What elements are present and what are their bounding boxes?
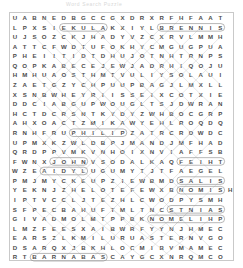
grid-cell[interactable]: Y — [137, 23, 147, 33]
grid-cell[interactable]: J — [78, 32, 88, 42]
grid-cell[interactable]: L — [78, 166, 88, 176]
grid-cell[interactable]: A — [10, 42, 20, 52]
grid-cell[interactable]: D — [108, 32, 118, 42]
grid-cell[interactable]: V — [196, 233, 206, 243]
grid-cell[interactable]: R — [157, 61, 167, 71]
grid-cell[interactable]: P — [215, 214, 225, 224]
grid-cell[interactable]: V — [39, 195, 49, 205]
grid-cell[interactable]: S — [127, 90, 137, 100]
grid-cell[interactable]: C — [157, 205, 167, 215]
grid-cell[interactable]: P — [108, 214, 118, 224]
grid-cell[interactable]: U — [108, 166, 118, 176]
grid-cell[interactable]: V — [88, 157, 98, 167]
grid-cell[interactable]: R — [137, 13, 147, 23]
grid-cell[interactable]: H — [20, 51, 30, 61]
grid-cell[interactable]: G — [108, 13, 118, 23]
grid-cell[interactable]: D — [118, 157, 128, 167]
grid-cell[interactable]: M — [196, 224, 206, 234]
grid-cell[interactable]: S — [20, 243, 30, 253]
grid-cell[interactable]: M — [176, 243, 186, 253]
grid-cell[interactable]: B — [59, 61, 69, 71]
grid-cell[interactable]: J — [30, 176, 40, 186]
grid-cell[interactable]: H — [88, 70, 98, 80]
grid-cell[interactable]: T — [176, 51, 186, 61]
grid-cell[interactable]: L — [127, 205, 137, 215]
grid-cell[interactable]: X — [157, 90, 167, 100]
grid-cell[interactable]: F — [186, 147, 196, 157]
grid-cell[interactable]: M — [20, 70, 30, 80]
grid-cell[interactable]: S — [176, 176, 186, 186]
grid-cell[interactable]: B — [30, 13, 40, 23]
grid-cell[interactable]: U — [88, 166, 98, 176]
grid-cell[interactable]: E — [176, 214, 186, 224]
grid-cell[interactable]: A — [147, 80, 157, 90]
grid-cell[interactable]: D — [186, 128, 196, 138]
grid-cell[interactable]: R — [196, 99, 206, 109]
grid-cell[interactable]: F — [167, 166, 177, 176]
grid-cell[interactable]: P — [10, 176, 20, 186]
grid-cell[interactable]: L — [167, 118, 177, 128]
grid-cell[interactable]: E — [108, 61, 118, 71]
grid-cell[interactable]: N — [39, 185, 49, 195]
grid-cell[interactable]: I — [49, 23, 59, 33]
grid-cell[interactable]: M — [196, 252, 206, 262]
grid-cell[interactable]: A — [137, 138, 147, 148]
grid-cell[interactable]: X — [157, 252, 167, 262]
grid-cell[interactable]: R — [186, 51, 196, 61]
grid-cell[interactable]: Z — [20, 166, 30, 176]
grid-cell[interactable]: K — [69, 32, 79, 42]
grid-cell[interactable]: U — [88, 205, 98, 215]
grid-cell[interactable]: N — [30, 90, 40, 100]
grid-cell[interactable]: F — [10, 157, 20, 167]
grid-cell[interactable]: N — [196, 23, 206, 33]
grid-cell[interactable]: M — [98, 70, 108, 80]
grid-cell[interactable]: P — [108, 138, 118, 148]
grid-cell[interactable]: X — [118, 13, 128, 23]
grid-cell[interactable]: U — [108, 80, 118, 90]
grid-cell[interactable]: B — [39, 90, 49, 100]
grid-cell[interactable]: E — [20, 185, 30, 195]
grid-cell[interactable]: R — [49, 252, 59, 262]
grid-cell[interactable]: I — [20, 214, 30, 224]
grid-cell[interactable]: V — [59, 147, 69, 157]
grid-cell[interactable]: D — [206, 118, 216, 128]
grid-cell[interactable]: W — [147, 195, 157, 205]
grid-cell[interactable]: N — [157, 51, 167, 61]
grid-cell[interactable]: J — [118, 138, 128, 148]
grid-cell[interactable]: R — [157, 13, 167, 23]
grid-cell[interactable]: K — [98, 109, 108, 119]
grid-cell[interactable]: S — [215, 176, 225, 186]
grid-cell[interactable]: Z — [49, 32, 59, 42]
grid-cell[interactable]: J — [206, 61, 216, 71]
grid-cell[interactable]: O — [196, 61, 206, 71]
grid-cell[interactable]: Q — [186, 252, 196, 262]
grid-cell[interactable]: G — [137, 252, 147, 262]
grid-cell[interactable]: F — [39, 224, 49, 234]
grid-cell[interactable]: O — [176, 70, 186, 80]
grid-cell[interactable]: A — [127, 157, 137, 167]
grid-cell[interactable]: G — [206, 233, 216, 243]
grid-cell[interactable]: A — [49, 70, 59, 80]
grid-cell[interactable]: G — [49, 80, 59, 90]
grid-cell[interactable]: U — [176, 42, 186, 52]
grid-cell[interactable]: A — [137, 61, 147, 71]
grid-cell[interactable]: T — [30, 195, 40, 205]
grid-cell[interactable]: M — [206, 195, 216, 205]
grid-cell[interactable]: N — [147, 205, 157, 215]
grid-cell[interactable]: E — [186, 166, 196, 176]
grid-cell[interactable]: W — [147, 109, 157, 119]
grid-cell[interactable]: I — [118, 176, 128, 186]
grid-cell[interactable]: E — [49, 13, 59, 23]
grid-cell[interactable]: H — [20, 118, 30, 128]
grid-cell[interactable]: I — [49, 51, 59, 61]
grid-cell[interactable]: T — [59, 51, 69, 61]
grid-cell[interactable]: I — [196, 157, 206, 167]
grid-cell[interactable]: R — [167, 32, 177, 42]
grid-cell[interactable]: G — [157, 80, 167, 90]
grid-cell[interactable]: N — [196, 51, 206, 61]
grid-cell[interactable]: S — [39, 233, 49, 243]
grid-cell[interactable]: Y — [69, 166, 79, 176]
grid-cell[interactable]: B — [215, 147, 225, 157]
grid-cell[interactable]: O — [186, 185, 196, 195]
grid-cell[interactable]: O — [215, 252, 225, 262]
